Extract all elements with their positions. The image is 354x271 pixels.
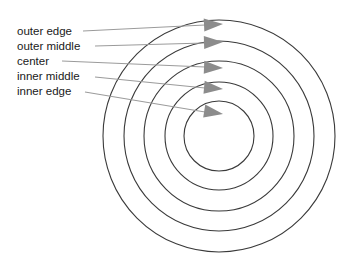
callout-outer-edge: outer edge bbox=[17, 18, 223, 37]
callout-outer-middle: outer middle bbox=[17, 36, 223, 52]
leader-line-outer-edge bbox=[83, 25, 205, 31]
ring-outer-edge bbox=[103, 20, 335, 252]
label-center: center bbox=[17, 55, 49, 67]
concentric-rings-diagram: outer edge outer middle center inner mid… bbox=[0, 0, 354, 271]
ring-center bbox=[144, 61, 294, 211]
arrowhead-icon-inner-edge bbox=[203, 105, 223, 118]
callout-inner-edge: inner edge bbox=[17, 85, 223, 117]
label-inner-middle: inner middle bbox=[17, 70, 80, 82]
ring-group bbox=[103, 20, 335, 252]
label-outer-middle: outer middle bbox=[17, 40, 80, 52]
callout-group: outer edge outer middle center inner mid… bbox=[17, 18, 223, 117]
label-inner-edge: inner edge bbox=[17, 85, 71, 97]
ring-inner-middle bbox=[165, 82, 273, 190]
diagram-canvas: outer edge outer middle center inner mid… bbox=[0, 0, 354, 271]
leader-line-inner-middle bbox=[95, 77, 205, 88]
ring-outer-middle bbox=[124, 41, 314, 231]
arrowhead-icon-center bbox=[204, 61, 223, 74]
arrowhead-icon-outer-middle bbox=[204, 36, 223, 49]
ring-inner-edge bbox=[184, 101, 254, 171]
leader-line-center bbox=[62, 61, 205, 67]
leader-line-inner-edge bbox=[85, 92, 205, 112]
label-outer-edge: outer edge bbox=[17, 25, 72, 37]
